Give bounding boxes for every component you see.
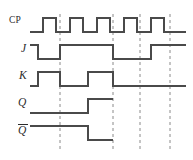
signal-label-text-cp: CP: [9, 15, 21, 25]
signal-label-qbar: Q: [18, 124, 26, 137]
signal-trace-q: [30, 99, 113, 113]
signal-trace-j: [30, 45, 186, 59]
signal-label-text-q: Q: [18, 96, 26, 108]
timing-diagram: CPJKQQ: [0, 0, 193, 160]
guide-line-layer: [60, 14, 170, 152]
timing-waveform-canvas: [0, 0, 193, 160]
signal-trace-layer: [30, 18, 186, 140]
signal-label-text-j: J: [21, 42, 26, 54]
overbar-rule: [18, 124, 28, 125]
signal-label-k: K: [19, 70, 27, 82]
signal-label-text-qbar: Q: [18, 124, 26, 136]
signal-trace-qbar: [30, 126, 113, 140]
signal-trace-cp: [30, 18, 186, 32]
signal-trace-k: [30, 72, 186, 86]
signal-label-q: Q: [18, 97, 26, 109]
signal-label-cp: CP: [9, 16, 21, 26]
signal-label-j: J: [21, 43, 26, 55]
overbar-group-qbar: Q: [18, 124, 26, 137]
signal-label-text-k: K: [19, 69, 27, 81]
